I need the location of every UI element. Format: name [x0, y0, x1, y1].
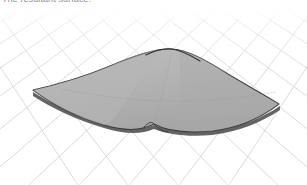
- viewport-canvas[interactable]: [0, 0, 307, 185]
- figure-caption: The resultant surface.: [2, 0, 91, 4]
- screenshot-root: The resultant surface.: [0, 0, 307, 185]
- caption-strip: The resultant surface.: [0, 0, 307, 8]
- 3d-surface-viewport[interactable]: [0, 0, 307, 185]
